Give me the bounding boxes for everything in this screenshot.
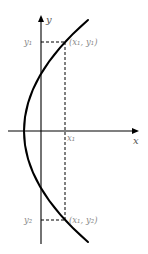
x-axis-arrow-icon: [132, 128, 139, 134]
point-label-x1-y1: (x₁, y₁): [69, 37, 97, 47]
x1-tick-label: x₁: [67, 133, 75, 143]
y-axis-arrow-icon: [38, 15, 44, 22]
y2-tick-label: y₂: [23, 215, 33, 225]
y-axis-label: y: [45, 14, 52, 25]
y-axis: [38, 15, 44, 244]
parabola-diagram: y x y₁ y₂ x₁ (x₁, y₁) (x₁, y₂): [0, 0, 148, 254]
x-axis-label: x: [133, 135, 139, 146]
point-label-x1-y2: (x₁, y₂): [69, 215, 97, 225]
y1-tick-label: y₁: [23, 37, 32, 47]
